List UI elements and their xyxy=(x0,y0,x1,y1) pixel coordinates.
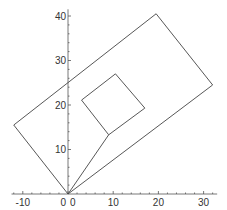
axes xyxy=(12,9,218,194)
x-tick-label: 20 xyxy=(153,197,165,208)
y-tick-label: 30 xyxy=(55,55,67,66)
x-tick-label: 10 xyxy=(108,197,120,208)
outer-rectangle xyxy=(14,14,213,194)
shapes xyxy=(14,14,213,194)
y-tick-label: 20 xyxy=(55,100,67,111)
y-tick-label: 40 xyxy=(55,11,67,22)
x-tick-label: -10 xyxy=(16,197,31,208)
plot-canvas: -100102030010203040 xyxy=(0,0,227,210)
connector xyxy=(68,135,109,194)
y-tick-label: 10 xyxy=(55,144,67,155)
x-tick-label: 0 xyxy=(70,197,76,208)
y-tick-label: 0 xyxy=(60,197,66,208)
axis-ticks xyxy=(14,16,213,194)
x-tick-label: 30 xyxy=(198,197,210,208)
inner-square xyxy=(82,74,145,135)
